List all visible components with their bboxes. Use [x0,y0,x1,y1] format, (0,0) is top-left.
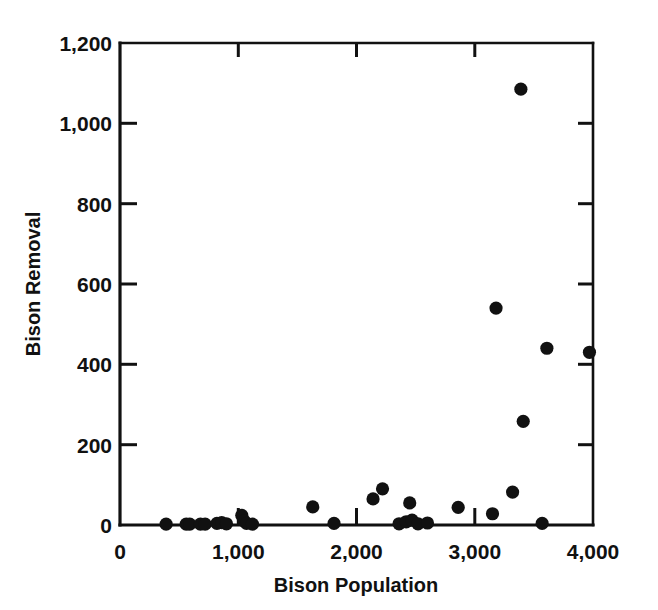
data-point [199,518,212,531]
x-axis-top-ticks [238,43,474,57]
data-point [489,302,502,315]
x-axis-title: Bison Population [274,574,438,596]
data-point [376,482,389,495]
data-point [514,83,527,96]
y-axis-right-ticks [578,123,593,444]
x-axis-ticks [238,508,474,525]
x-ticklabel-4000: 4,000 [567,540,620,563]
data-point [506,485,519,498]
x-axis-tick-labels: 0 1,000 2,000 3,000 4,000 [114,540,619,563]
y-ticklabel-600: 600 [77,273,112,296]
data-point [220,517,233,530]
y-ticklabel-1200: 1,200 [59,32,112,55]
bison-removal-scatter-figure: 1,200 1,000 800 600 400 200 0 0 1,000 2,… [0,0,658,610]
x-ticklabel-3000: 3,000 [449,540,502,563]
data-point [327,517,340,530]
data-point [536,517,549,530]
data-point [452,501,465,514]
y-axis-ticks [120,123,137,444]
data-point [160,518,173,531]
data-point [583,346,596,359]
y-axis-title: Bison Removal [22,212,44,356]
scatter-plot-svg: 1,200 1,000 800 600 400 200 0 0 1,000 2,… [0,0,658,610]
y-axis-tick-labels: 1,200 1,000 800 600 400 200 0 [59,32,112,537]
y-ticklabel-1000: 1,000 [59,112,112,135]
x-ticklabel-1000: 1,000 [212,540,265,563]
data-point [421,516,434,529]
data-point [517,415,530,428]
data-point [486,507,499,520]
x-ticklabel-2000: 2,000 [330,540,383,563]
x-ticklabel-0: 0 [114,540,126,563]
data-point [246,518,259,531]
data-points-layer [160,83,597,531]
data-point [306,500,319,513]
data-point [366,492,379,505]
data-point [540,342,553,355]
y-ticklabel-400: 400 [77,353,112,376]
data-point [403,496,416,509]
plot-frame [120,43,593,525]
y-ticklabel-200: 200 [77,434,112,457]
y-ticklabel-0: 0 [100,514,112,537]
y-ticklabel-800: 800 [77,193,112,216]
